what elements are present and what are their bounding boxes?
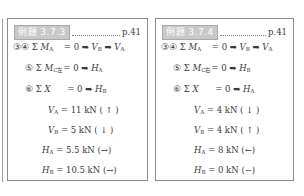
step-number: ⑤ — [173, 63, 181, 73]
step-number: ⑥ — [25, 84, 33, 94]
force-var: X — [44, 84, 50, 94]
subscript: A — [197, 46, 201, 52]
sigma-symbol: Σ — [180, 42, 186, 52]
subscript: A — [120, 46, 124, 52]
subscript: A — [201, 149, 205, 155]
arrow-right-icon: ➡ — [81, 63, 88, 73]
example-panel-3-7-3: 例題 3.7.3 p.41 ③④ Σ MA = 0 ➡ VB ➡ VA ⑤ Σ … — [7, 18, 148, 181]
direction-arrow-icon: (→) — [103, 165, 117, 175]
result-var: H — [239, 63, 246, 73]
panel-header: 例題 3.7.3 p.41 — [14, 25, 141, 39]
force-var: X — [192, 84, 198, 94]
direction-arrow-icon: ( ↑ ) — [99, 105, 118, 115]
page-reference: p.41 — [268, 27, 287, 37]
moment-var: M — [40, 42, 49, 52]
step-number: ⑥ — [173, 84, 181, 94]
equals-zero: = 0 — [215, 84, 230, 94]
result-value: = 8 kN — [208, 145, 239, 155]
result-value: = 5.5 kN — [56, 145, 95, 155]
page-reference: p.41 — [122, 27, 141, 37]
result-value: = 0 kN — [208, 165, 239, 175]
result-row: VB = 5 kN ( ↓ ) — [48, 125, 113, 135]
direction-arrow-icon: (→) — [97, 145, 111, 155]
moment-var: M — [192, 63, 201, 73]
subscript: A — [99, 67, 103, 73]
subscript: A — [200, 109, 204, 115]
result-row: HA = 5.5 kN (→) — [42, 145, 111, 155]
result-row: HA = 8 kN (←) — [194, 145, 255, 155]
page-edge-line — [2, 19, 3, 182]
arrow-right-icon: ➡ — [252, 42, 259, 52]
equation-row-1: ③④ Σ MA = 0 ➡ VB ➡ VA — [13, 42, 124, 52]
direction-arrow-icon: (−) — [241, 165, 255, 175]
equation-row-3: ⑥ Σ X = 0 ➡ HA — [173, 84, 254, 94]
sigma-symbol: Σ — [184, 63, 190, 73]
subscript: C右 — [201, 67, 211, 73]
subscript: A — [49, 46, 53, 52]
result-value: = 10.5 kN — [56, 165, 100, 175]
equals-zero: = 0 — [64, 42, 79, 52]
arrow-right-icon: ➡ — [82, 42, 89, 52]
example-panel-3-7-4: 例題 3.7.4 p.41 ③④ Σ MA = 0 ➡ VB ➡ VA ⑤ Σ … — [155, 18, 294, 181]
subscript: B — [49, 169, 53, 175]
arrow-right-icon: ➡ — [233, 84, 240, 94]
equation-row-2: ⑤ Σ MC左= 0 ➡ HA — [25, 63, 103, 74]
example-badge: 例題 3.7.4 — [162, 25, 218, 40]
subscript: A — [250, 88, 254, 94]
arrow-right-icon: ➡ — [104, 42, 111, 52]
equals-zero: = 0 — [63, 63, 78, 73]
equation-row-1: ③④ Σ MA = 0 ➡ VB ➡ VA — [161, 42, 272, 52]
equals-zero: = 0 — [211, 63, 226, 73]
subscript: A — [268, 46, 272, 52]
dotted-leader — [72, 28, 120, 36]
equals-zero: = 0 — [67, 84, 82, 94]
result-row: HB = 0 kN (−) — [194, 165, 255, 175]
equation-row-2: ⑤ Σ MC右= 0 ➡ HB — [173, 63, 251, 74]
result-var: H — [91, 63, 98, 73]
moment-var: M — [44, 63, 53, 73]
step-number: ⑤ — [25, 63, 33, 73]
result-row: VA = 4 kN ( ↓ ) — [194, 105, 259, 115]
subscript: B — [246, 46, 250, 52]
direction-arrow-icon: ( ↓ ) — [240, 105, 259, 115]
arrow-right-icon: ➡ — [85, 84, 92, 94]
subscript: A — [49, 149, 53, 155]
subscript: A — [54, 109, 58, 115]
equals-zero: = 0 — [212, 42, 227, 52]
sigma-symbol: Σ — [36, 84, 42, 94]
arrow-right-icon: ➡ — [230, 42, 237, 52]
result-row: VA = 11 kN ( ↑ ) — [48, 105, 119, 115]
result-row: HB = 10.5 kN (→) — [42, 165, 117, 175]
result-value: = 4 kN — [207, 125, 238, 135]
moment-var: M — [188, 42, 197, 52]
result-row: VB = 4 kN ( ↑ ) — [194, 125, 259, 135]
sigma-symbol: Σ — [184, 84, 190, 94]
equation-row-3: ⑥ Σ X = 0 ➡ HB — [25, 84, 106, 94]
direction-arrow-icon: ( ↓ ) — [94, 125, 113, 135]
subscript: B — [54, 129, 58, 135]
subscript: B — [98, 46, 102, 52]
panel-header: 例題 3.7.4 p.41 — [162, 25, 287, 39]
result-value: = 5 kN — [61, 125, 92, 135]
dotted-leader — [220, 28, 266, 36]
direction-arrow-icon: (←) — [241, 145, 255, 155]
subscript: B — [201, 169, 205, 175]
subscript: B — [247, 67, 251, 73]
sigma-symbol: Σ — [32, 42, 38, 52]
step-number: ③④ — [161, 42, 177, 52]
arrow-right-icon: ➡ — [229, 63, 236, 73]
result-value: = 11 kN — [61, 105, 97, 115]
sigma-symbol: Σ — [36, 63, 42, 73]
example-badge: 例題 3.7.3 — [14, 25, 70, 40]
subscript: B — [102, 88, 106, 94]
step-number: ③④ — [13, 42, 29, 52]
subscript: C左 — [53, 67, 63, 73]
result-value: = 4 kN — [207, 105, 238, 115]
direction-arrow-icon: ( ↑ ) — [240, 125, 259, 135]
subscript: B — [200, 129, 204, 135]
